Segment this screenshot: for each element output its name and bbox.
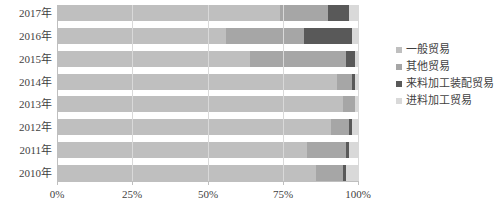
bar-segment[interactable] bbox=[328, 5, 349, 21]
x-axis-tick-label: 100% bbox=[345, 188, 371, 200]
x-axis-tick bbox=[57, 181, 58, 185]
bar-segment[interactable] bbox=[343, 96, 355, 112]
legend-item-2[interactable]: 来料加工装配贸易 bbox=[396, 76, 495, 91]
bar-segment[interactable] bbox=[57, 28, 226, 44]
gridline-50% bbox=[208, 5, 209, 181]
bar-segment[interactable] bbox=[57, 119, 331, 135]
y-axis-category-label-2: 2015年 bbox=[0, 51, 52, 67]
legend-label: 来料加工装配贸易 bbox=[406, 78, 494, 89]
bar-segment[interactable] bbox=[331, 119, 349, 135]
bar-segment[interactable] bbox=[57, 51, 250, 67]
bar-segment[interactable] bbox=[57, 142, 307, 158]
y-axis-category-labels: 2017年2016年2015年2014年2013年2012年2011年2010年 bbox=[0, 5, 52, 181]
plot-area bbox=[57, 5, 358, 181]
bar-segment[interactable] bbox=[304, 28, 352, 44]
bar-segment[interactable] bbox=[57, 96, 343, 112]
legend-label: 一般贸易 bbox=[406, 44, 450, 55]
bar-segment[interactable] bbox=[226, 28, 304, 44]
bar-segment[interactable] bbox=[346, 165, 358, 181]
gridline-100% bbox=[358, 5, 359, 181]
bar-segment[interactable] bbox=[316, 165, 343, 181]
legend-item-3[interactable]: 进料加工贸易 bbox=[396, 93, 495, 108]
bar-segment[interactable] bbox=[346, 51, 355, 67]
legend-swatch-icon bbox=[396, 64, 402, 70]
bar-segment[interactable] bbox=[337, 74, 352, 90]
x-axis-tick bbox=[283, 181, 284, 185]
legend-swatch-icon bbox=[396, 98, 402, 104]
stacked-bar-chart: 2017年2016年2015年2014年2013年2012年2011年2010年… bbox=[0, 0, 495, 211]
y-axis-category-label-6: 2011年 bbox=[0, 142, 52, 158]
legend-label: 进料加工贸易 bbox=[406, 95, 472, 106]
bar-segment[interactable] bbox=[250, 51, 346, 67]
x-axis-tick-labels: 0%25%50%75%100% bbox=[0, 188, 420, 204]
y-axis-category-label-0: 2017年 bbox=[0, 5, 52, 21]
x-axis-tick-label: 75% bbox=[273, 188, 293, 200]
bar-segment[interactable] bbox=[307, 142, 346, 158]
chart-legend: 一般贸易其他贸易来料加工装配贸易进料加工贸易 bbox=[396, 42, 495, 110]
bar-segment[interactable] bbox=[280, 5, 328, 21]
legend-item-1[interactable]: 其他贸易 bbox=[396, 59, 495, 74]
gridline-25% bbox=[132, 5, 133, 181]
y-axis-line bbox=[57, 5, 58, 181]
legend-swatch-icon bbox=[396, 81, 402, 87]
y-axis-category-label-1: 2016年 bbox=[0, 28, 52, 44]
x-axis-tick-label: 0% bbox=[50, 188, 65, 200]
y-axis-category-label-3: 2014年 bbox=[0, 74, 52, 90]
x-axis-tick bbox=[208, 181, 209, 185]
y-axis-category-label-7: 2010年 bbox=[0, 165, 52, 181]
x-axis-tick bbox=[358, 181, 359, 185]
gridline-75% bbox=[283, 5, 284, 181]
x-axis-tick bbox=[132, 181, 133, 185]
bar-segment[interactable] bbox=[57, 74, 337, 90]
x-axis-tick-label: 50% bbox=[198, 188, 218, 200]
legend-swatch-icon bbox=[396, 47, 402, 53]
y-axis-category-label-4: 2013年 bbox=[0, 96, 52, 112]
y-axis-category-label-5: 2012年 bbox=[0, 119, 52, 135]
legend-item-0[interactable]: 一般贸易 bbox=[396, 42, 495, 57]
bar-segment[interactable] bbox=[57, 165, 316, 181]
bar-segment[interactable] bbox=[349, 5, 358, 21]
x-axis-tick-label: 25% bbox=[122, 188, 142, 200]
bar-segment[interactable] bbox=[57, 5, 280, 21]
legend-label: 其他贸易 bbox=[406, 61, 450, 72]
bar-segment[interactable] bbox=[349, 142, 358, 158]
